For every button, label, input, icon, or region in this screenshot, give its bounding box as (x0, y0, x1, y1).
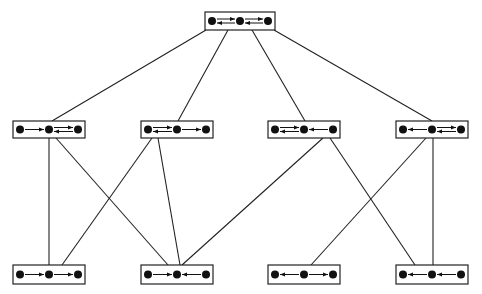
state-node-b3 (268, 265, 340, 284)
dot-icon (173, 271, 181, 279)
dot-icon (457, 126, 465, 134)
dot-icon (329, 271, 337, 279)
state-node-m4 (396, 121, 468, 138)
edge-m1-b3 (56, 138, 168, 265)
dot-icon (144, 271, 152, 279)
dot-icon (236, 17, 244, 25)
dot-icon (300, 126, 308, 134)
dot-icon (271, 271, 279, 279)
dot-icon (271, 126, 279, 134)
dot-icon (428, 126, 436, 134)
dot-icon (264, 17, 272, 25)
state-node-b2 (141, 265, 213, 284)
dot-icon (399, 271, 407, 279)
dot-icon (74, 126, 82, 134)
edge-m3-b4 (330, 138, 415, 265)
state-lattice-diagram (0, 0, 482, 294)
dot-icon (457, 271, 465, 279)
dot-icon (45, 126, 53, 134)
edge-m4-b3 (311, 138, 426, 265)
dot-icon (300, 271, 308, 279)
dot-icon (173, 126, 181, 134)
edge-m3-b2 (182, 138, 323, 265)
state-node-m1 (13, 121, 85, 138)
edge-top-m4 (274, 30, 432, 121)
dot-icon (16, 126, 24, 134)
dot-icon (16, 271, 24, 279)
dot-icon (144, 126, 152, 134)
edge-m2-b2 (158, 138, 180, 265)
state-node-m2 (141, 121, 213, 138)
dot-icon (329, 126, 337, 134)
edge-top-m1 (52, 30, 206, 121)
state-node-m3 (268, 121, 340, 138)
dot-icon (208, 17, 216, 25)
dot-icon (202, 126, 210, 134)
dot-icon (202, 271, 210, 279)
dot-icon (45, 271, 53, 279)
edges-layer (49, 30, 433, 265)
state-node-b1 (13, 265, 85, 284)
dot-icon (428, 271, 436, 279)
state-node-top (205, 12, 275, 30)
state-node-b4 (396, 265, 468, 284)
dot-icon (74, 271, 82, 279)
dot-icon (399, 126, 407, 134)
edge-top-m2 (178, 30, 228, 121)
edge-m2-b1 (62, 138, 152, 265)
